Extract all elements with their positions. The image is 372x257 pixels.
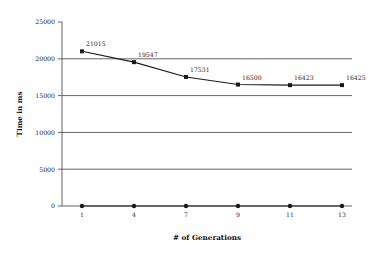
data-point-marker [236, 204, 240, 208]
data-point-marker [132, 60, 136, 64]
x-axis-tick-label: 7 [184, 211, 188, 218]
data-point-marker [184, 75, 188, 79]
data-point-label: 19547 [138, 51, 158, 58]
x-axis-tick-label: 9 [236, 211, 240, 218]
chart-background [0, 0, 372, 257]
y-axis-tick-label: 25000 [35, 18, 55, 25]
data-point-marker [288, 204, 292, 208]
data-point-marker [340, 83, 344, 87]
data-point-label: 16500 [242, 74, 262, 81]
x-axis-tick-label: 13 [338, 211, 346, 218]
data-point-label: 16425 [346, 74, 366, 81]
data-point-marker [80, 204, 84, 208]
line-chart: 0500010000150002000025000 14791113 21015… [0, 0, 372, 257]
x-axis-title: # of Generations [173, 233, 241, 242]
x-axis-tick-label: 11 [286, 211, 294, 218]
data-point-marker [184, 204, 188, 208]
data-point-label: 16423 [294, 74, 314, 81]
data-point-marker [288, 83, 292, 87]
y-axis-tick-label: 0 [51, 202, 55, 209]
data-point-marker [236, 83, 240, 87]
data-point-marker [132, 204, 136, 208]
data-point-label: 17531 [190, 66, 210, 73]
y-axis-tick-label: 10000 [35, 129, 55, 136]
y-axis-tick-label: 5000 [39, 166, 55, 173]
data-point-label: 21015 [86, 40, 106, 47]
chart-container: 0500010000150002000025000 14791113 21015… [0, 0, 372, 257]
x-axis-tick-label: 1 [80, 211, 84, 218]
y-axis-tick-label: 15000 [35, 92, 55, 99]
y-axis-tick-label: 20000 [35, 55, 55, 62]
data-point-marker [80, 49, 84, 53]
data-point-marker [340, 204, 344, 208]
x-axis-tick-label: 4 [132, 211, 136, 218]
y-axis-title: Time in ms [15, 92, 24, 137]
